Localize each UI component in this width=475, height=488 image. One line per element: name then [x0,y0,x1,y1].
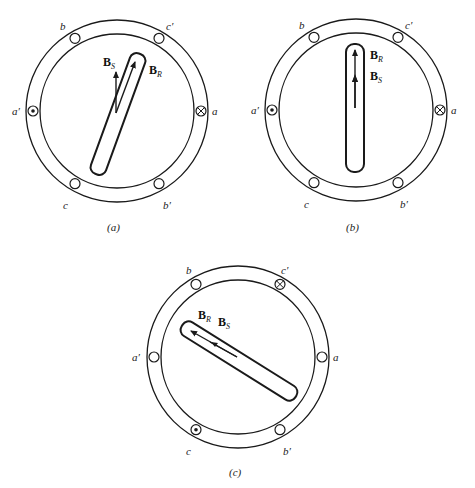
slot-c-prime [275,279,285,289]
label-c-prime: c′ [405,19,413,31]
rotor [178,319,300,404]
slot-a-prime [28,106,38,116]
label-b: b [60,20,66,32]
dot-icon [194,428,198,432]
dot-icon [31,109,35,113]
label-a: a [333,351,339,363]
slot-c-prime [154,33,164,43]
label-b-prime: b′ [400,198,409,210]
label-a-prime: a′ [12,105,21,117]
label-a-prime: a′ [251,104,260,116]
slot-b [70,33,80,43]
slot-a-prime [149,352,159,362]
label-b-r: BR [370,48,383,64]
machine-figure: a a′ b c′ c b′ BS BR (a) [0,0,475,488]
label-b-s: BS [103,55,115,71]
slot-b-prime [393,178,403,188]
label-b: b [186,264,192,276]
label-a: a [451,104,457,116]
rotor [89,51,148,177]
label-b-s: BS [370,69,382,85]
label-b-prime: b′ [163,199,172,211]
slot-b [309,32,319,42]
label-b-r: BR [149,63,162,79]
slot-c-prime [393,32,403,42]
caption-b: (b) [346,221,359,234]
diagram-a: a a′ b c′ c b′ BS BR (a) [12,20,218,234]
label-c-prime: c′ [166,20,174,32]
label-c-prime: c′ [281,264,289,276]
label-b-prime: b′ [283,445,292,457]
slot-c [191,425,201,435]
slot-c [70,179,80,189]
label-c: c [63,199,68,211]
slot-b-prime [275,425,285,435]
slot-a [435,105,445,115]
slot-a-prime [267,105,277,115]
label-c: c [186,445,191,457]
label-a: a [212,105,218,117]
slot-a [196,106,206,116]
dot-icon [270,108,274,112]
caption-a: (a) [107,221,120,234]
label-a-prime: a′ [132,351,141,363]
caption-c: (c) [229,466,242,479]
slot-b-prime [154,179,164,189]
label-c: c [304,198,309,210]
diagram-b: a a′ b c′ c b′ BR BS (b) [251,19,457,234]
slot-b [191,279,201,289]
label-b: b [299,19,305,31]
slot-c [309,178,319,188]
label-b-s: BS [218,315,230,331]
slot-a [317,352,327,362]
label-b-r: BR [198,308,211,324]
diagram-c: a a′ b c′ c b′ BR BS (c) [132,264,339,479]
